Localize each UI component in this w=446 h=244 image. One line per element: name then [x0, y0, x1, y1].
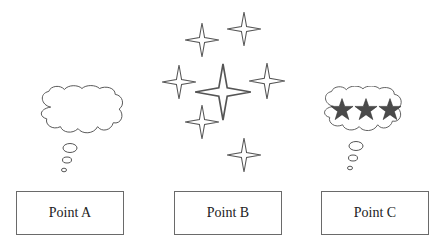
label-box-point-a: Point A — [16, 191, 124, 235]
label-point-b: Point B — [207, 205, 249, 221]
thought-bubble-dot-medium — [349, 155, 358, 161]
sparkles-b — [162, 12, 285, 172]
thought-cloud-a — [41, 86, 122, 172]
thought-cloud-c — [325, 86, 402, 170]
cloud-icon — [41, 86, 122, 133]
sparkle-icon — [227, 138, 261, 172]
thought-bubble-dot-large — [349, 142, 363, 151]
thought-bubble-dot-large — [63, 144, 77, 153]
label-box-point-c: Point C — [321, 191, 429, 235]
sparkle-icon — [162, 65, 196, 99]
label-box-point-b: Point B — [174, 191, 282, 235]
thought-bubble-dot-small — [348, 166, 353, 170]
thought-bubble-dot-medium — [63, 157, 72, 163]
thought-bubble-dot-small — [62, 168, 67, 172]
label-point-c: Point C — [354, 205, 396, 221]
label-point-a: Point A — [49, 205, 91, 221]
sparkle-icon — [249, 63, 285, 99]
sparkle-icon — [185, 105, 219, 139]
sparkle-icon — [185, 23, 219, 57]
sparkle-icon — [227, 12, 261, 46]
